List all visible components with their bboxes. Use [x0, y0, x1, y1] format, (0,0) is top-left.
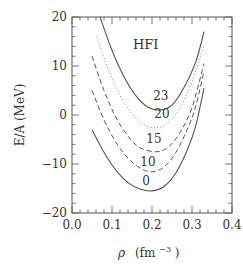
curve-23: [100, 17, 204, 110]
y-axis-label: E/A (MeV): [13, 84, 27, 147]
x-tick-label: 0.1: [102, 218, 121, 232]
y-tick-label: 10: [52, 59, 67, 73]
chart-title: HFI: [133, 37, 159, 52]
x-tick-label: 0.4: [222, 218, 241, 232]
curve-label-0: 0: [142, 174, 150, 188]
curve-label-10: 10: [140, 155, 155, 169]
x-axis-unit: (fm: [135, 246, 156, 260]
x-tick-label: 0.2: [142, 218, 161, 232]
curve-labels: 010152023: [140, 89, 169, 187]
x-axis-exponent: −3: [159, 245, 171, 254]
y-tick-label: −20: [42, 206, 67, 220]
curve-label-15: 15: [146, 132, 161, 146]
y-tick-label: 20: [52, 10, 67, 24]
x-tick-label: 0.0: [62, 218, 81, 232]
chart-container: 0.00.10.20.30.4−20−1001020 010152023 HFI…: [0, 0, 243, 275]
line-chart: 0.00.10.20.30.4−20−1001020 010152023 HFI…: [0, 0, 243, 275]
y-tick-label: −10: [42, 157, 67, 171]
y-tick-label: 0: [59, 108, 67, 122]
curve-label-20: 20: [154, 107, 169, 121]
x-axis-label: ρ (fm −3 ): [117, 241, 180, 260]
curve-label-23: 23: [153, 89, 168, 103]
x-axis-close: ): [175, 246, 180, 260]
x-axis-symbol: ρ: [117, 246, 125, 260]
x-tick-label: 0.3: [182, 218, 201, 232]
